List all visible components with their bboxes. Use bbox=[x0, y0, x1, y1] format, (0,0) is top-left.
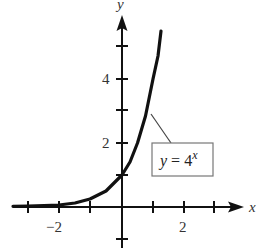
y-axis-label: y bbox=[115, 0, 124, 12]
x-tick-label-neg2: −2 bbox=[46, 219, 62, 235]
x-axis bbox=[13, 201, 244, 213]
y-tick-label-4: 4 bbox=[102, 71, 110, 87]
chart: y = 4x y x −2 2 2 4 bbox=[0, 0, 260, 248]
exponential-curve bbox=[13, 31, 161, 206]
y-axis bbox=[116, 15, 128, 248]
x-axis-label: x bbox=[248, 199, 256, 215]
y-tick-label-2: 2 bbox=[102, 135, 110, 151]
equation-label: y = 4x bbox=[158, 148, 198, 170]
x-tick-label-2: 2 bbox=[179, 219, 187, 235]
annotation-leader-line bbox=[151, 114, 171, 143]
